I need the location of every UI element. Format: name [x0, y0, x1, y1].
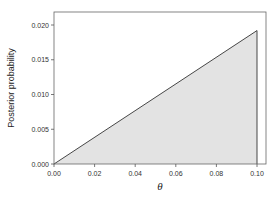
y-tick-label: 0.020 — [31, 22, 49, 29]
x-tick-label: 0.02 — [88, 170, 102, 177]
x-tick-label: 0.00 — [47, 170, 61, 177]
y-tick-label: 0.010 — [31, 91, 49, 98]
x-axis: 0.000.020.040.060.080.10 — [47, 164, 264, 177]
x-tick-label: 0.08 — [210, 170, 224, 177]
x-tick-label: 0.10 — [250, 170, 264, 177]
x-tick-label: 0.06 — [169, 170, 183, 177]
posterior-chart: 0.0000.0050.0100.0150.020 0.000.020.040.… — [0, 0, 280, 199]
y-tick-label: 0.015 — [31, 56, 49, 63]
y-axis-label: Posterior probability — [6, 48, 16, 128]
y-tick-label: 0.005 — [31, 126, 49, 133]
y-axis: 0.0000.0050.0100.0150.020 — [31, 22, 54, 168]
x-tick-label: 0.04 — [128, 170, 142, 177]
x-axis-label: θ — [157, 180, 163, 192]
plot-area — [54, 12, 266, 164]
y-tick-label: 0.000 — [31, 161, 49, 168]
